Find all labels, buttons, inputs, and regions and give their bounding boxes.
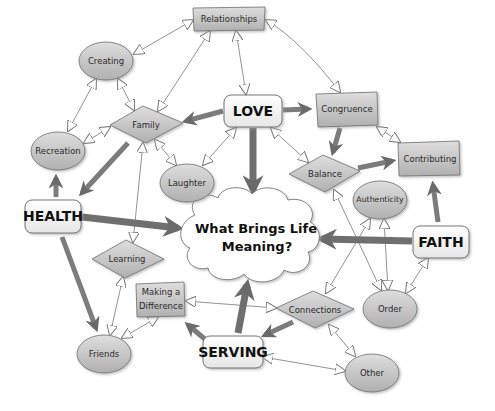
node-order-label: Order	[378, 304, 403, 314]
node-other-label: Other	[360, 368, 385, 378]
center-title-line1: What Brings Life	[195, 221, 317, 236]
pillar-love-label: LOVE	[233, 103, 273, 119]
node-recreation-label: Recreation	[35, 146, 80, 156]
node-contributing-label: Contributing	[404, 154, 457, 164]
node-family-label: Family	[132, 120, 159, 130]
node-learning-label: Learning	[109, 254, 146, 264]
node-congruence-label: Congruence	[321, 104, 372, 114]
node-connections-label: Connections	[289, 305, 342, 315]
node-friends-label: Friends	[89, 349, 120, 359]
concept-map-canvas: What Brings Life Meaning? Relationships …	[0, 0, 495, 411]
center-title-line2: Meaning?	[222, 239, 292, 254]
pillar-serving-label: SERVING	[198, 344, 268, 360]
node-relationships-label: Relationships	[201, 14, 258, 24]
pillar-faith-label: FAITH	[418, 234, 463, 250]
node-authenticity-label: Authenticity	[356, 195, 404, 204]
node-making-a-difference-label-line2: Difference	[139, 301, 183, 311]
node-making-a-difference-label-line1: Making a	[142, 287, 181, 297]
node-laughter-label: Laughter	[168, 178, 207, 188]
node-balance-label: Balance	[308, 169, 342, 179]
pillar-health-label: HEALTH	[23, 208, 83, 224]
node-creating-label: Creating	[88, 56, 124, 66]
